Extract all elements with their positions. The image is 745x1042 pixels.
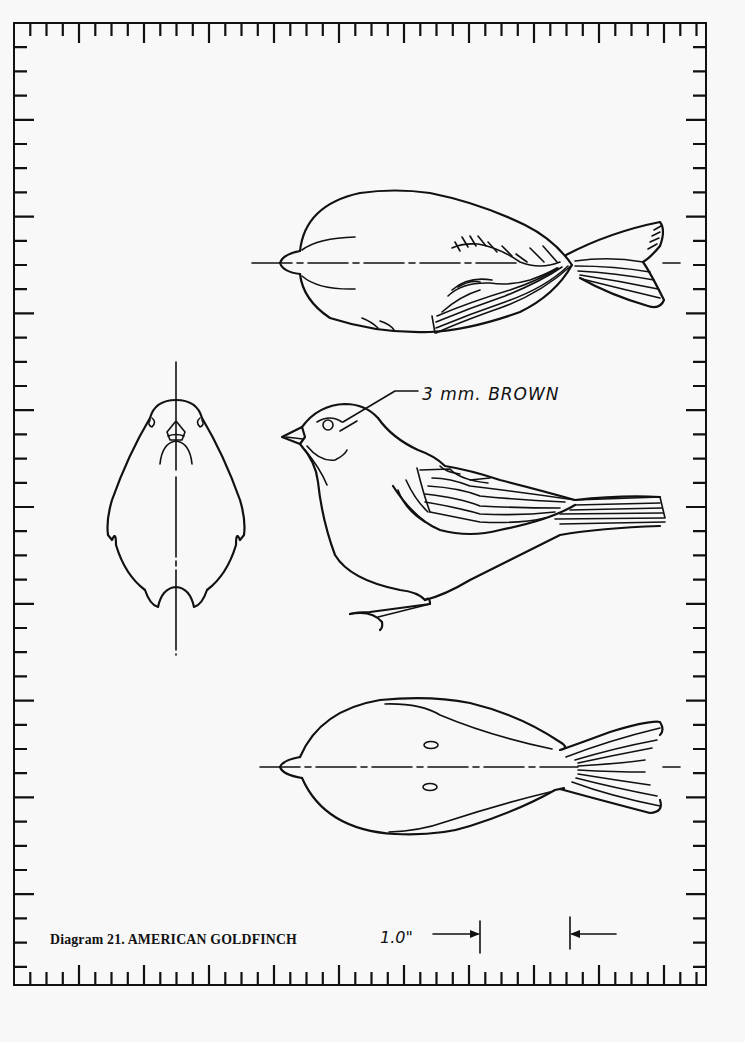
diagram-sheet: 3 mm. BROWN 1.0" Diagram 21. AMERICAN GO… [0,0,745,1042]
side-view [282,391,665,630]
eye-color-annotation: 3 mm. BROWN [422,384,560,404]
scale-bar [433,917,616,953]
scale-label: 1.0" [380,928,413,947]
carving-pattern-drawing [0,0,745,1042]
top-view [252,191,680,334]
front-view [108,362,245,655]
bottom-view [260,698,680,834]
diagram-caption: Diagram 21. AMERICAN GOLDFINCH [50,931,297,948]
